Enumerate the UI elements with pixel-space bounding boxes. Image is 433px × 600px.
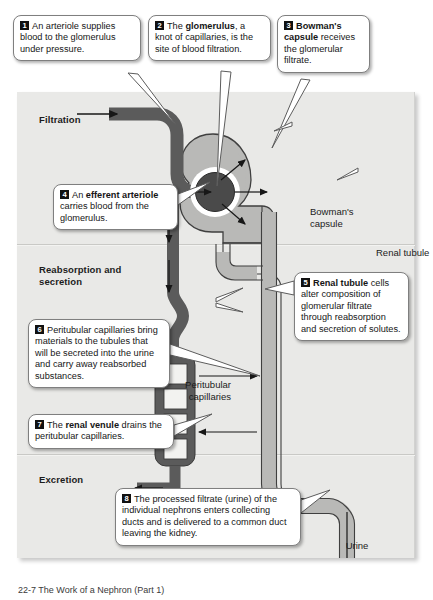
callout-5-number: 5 — [301, 278, 310, 287]
callout-8-number: 8 — [122, 494, 131, 503]
peritubular-capillaries-shape — [155, 354, 257, 466]
label-renal-tubule: Renal tubule — [376, 247, 430, 259]
callout-3-text: Bowman's capsule receives the glomerular… — [284, 21, 355, 65]
callout-3-number: 3 — [284, 21, 293, 30]
callout-2-text: The glomerulus, a knot of capillaries, i… — [155, 21, 253, 54]
callout-2-number: 2 — [155, 21, 164, 30]
callout-1-text: An arteriole supplies blood to the glome… — [20, 21, 116, 54]
callout-3[interactable]: 3Bowman's capsule receives the glomerula… — [277, 15, 370, 73]
label-urine: Urine — [334, 540, 380, 552]
callout-6-number: 6 — [35, 325, 44, 334]
renal-venule-shape — [135, 466, 175, 488]
callout-7-text: The renal venule drains the peritubular … — [35, 420, 162, 441]
callout-5-text: Renal tubule cells alter composition of … — [301, 278, 401, 334]
callout-1-number: 1 — [20, 21, 29, 30]
label-bowmans-capsule: Bowman's capsule — [310, 206, 380, 229]
figure-caption: 22-7 The Work of a Nephron (Part 1) — [18, 585, 348, 600]
callout-6[interactable]: 6Peritubular capillaries bring materials… — [28, 319, 170, 388]
callout-1[interactable]: 1An arteriole supplies blood to the glom… — [13, 15, 141, 61]
callout-4[interactable]: 4An efferent arteriole carries blood fro… — [53, 184, 178, 230]
callout-6-text: Peritubular capillaries bring materials … — [35, 325, 158, 381]
callout-4-number: 4 — [60, 190, 69, 199]
callout-2[interactable]: 2The glomerulus, a knot of capillaries, … — [148, 15, 271, 61]
figure-root: Filtration Reabsorption and secretion Ex… — [0, 0, 433, 600]
callout-7-number: 7 — [35, 420, 44, 429]
callout-4-text: An efferent arteriole carries blood from… — [60, 190, 158, 223]
callout-5[interactable]: 5Renal tubule cells alter composition of… — [294, 272, 409, 341]
callout-8-text: The processed filtrate (urine) of the in… — [122, 494, 286, 538]
callout-7[interactable]: 7The renal venule drains the peritubular… — [28, 414, 174, 449]
callout-8[interactable]: 8The processed filtrate (urine) of the i… — [115, 488, 301, 546]
